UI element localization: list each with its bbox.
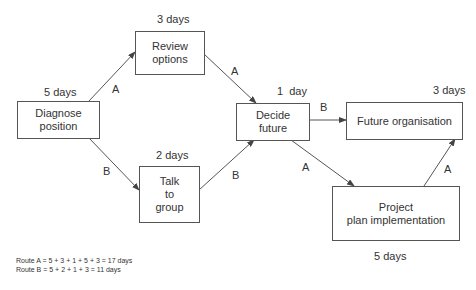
edge-label-diagnose-talk: B: [103, 165, 110, 177]
node-talk-to-group: Talk to group: [139, 166, 200, 223]
network-diagram: 5 days Diagnose position 3 days Review o…: [0, 0, 476, 290]
node-label-line: Talk: [155, 175, 183, 188]
node-label-line: position: [35, 120, 81, 133]
edge-label-review-decide: A: [231, 65, 238, 77]
node-label-line: to: [155, 188, 183, 201]
node-diagnose-position: Diagnose position: [17, 101, 100, 139]
node-label-line: Diagnose: [35, 107, 81, 120]
project-duration: 5 days: [374, 250, 406, 262]
node-review-options: Review options: [135, 31, 205, 75]
node-project-plan-implementation: Project plan implementation: [332, 186, 460, 241]
edge-label-project-future-org: A: [444, 163, 451, 175]
future-org-duration: 3 days: [433, 84, 465, 96]
node-label-line: future: [256, 122, 290, 135]
node-label-line: Future organisation: [357, 115, 452, 128]
arrow-diagnose-to-talk: [89, 138, 139, 190]
talk-duration: 2 days: [156, 149, 188, 161]
arrow-decide-to-project: [291, 140, 354, 186]
edge-label-talk-decide: B: [232, 169, 239, 181]
edge-label-decide-project: A: [302, 161, 309, 173]
node-label-line: Review: [152, 40, 188, 53]
node-label-line: options: [152, 53, 188, 66]
route-b-summary: Route B = 5 + 2 + 1 + 3 = 11 days: [16, 265, 121, 274]
edge-label-diagnose-review: A: [112, 83, 119, 95]
diagnose-duration: 5 days: [44, 86, 76, 98]
review-duration: 3 days: [157, 13, 189, 25]
node-label-line: plan implementation: [347, 214, 445, 227]
node-label-line: Decide: [256, 109, 290, 122]
node-label-line: group: [155, 201, 183, 214]
route-a-summary: Route A = 5 + 3 + 1 + 5 + 3 = 17 days: [16, 256, 132, 265]
node-label-line: Project: [347, 201, 445, 214]
connector-arrows: [0, 0, 476, 290]
node-future-organisation: Future organisation: [346, 102, 463, 140]
arrow-review-to-decide: [204, 54, 256, 103]
node-decide-future: Decide future: [236, 103, 310, 141]
edge-label-decide-future-org: B: [320, 101, 327, 113]
arrow-talk-to-decide: [199, 140, 254, 190]
decide-duration: 1 day: [277, 85, 307, 97]
